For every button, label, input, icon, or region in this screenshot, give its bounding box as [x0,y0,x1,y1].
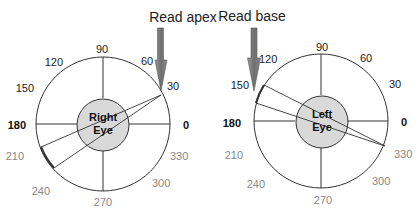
read-base-label: Read base [218,8,286,24]
left-eye-label-1: Left [312,108,333,120]
angle-label-180: 180 [223,117,241,129]
angle-label-270: 270 [314,194,332,206]
angle-label-270: 270 [94,196,112,208]
angle-label-180: 180 [8,119,26,131]
angle-label-330: 330 [170,150,188,162]
right-eye-label-1: Right [89,111,117,123]
angle-label-90: 90 [96,43,108,55]
angle-label-0: 0 [183,119,189,131]
angle-label-240: 240 [32,185,50,197]
left-eye-label-2: Eye [312,121,332,133]
angle-label-240: 240 [247,178,265,190]
angle-label-210: 210 [225,149,243,161]
angle-label-90: 90 [316,41,328,53]
right-eye-diagram: Right Eye 90 120 150 180 210 240 270 300… [6,9,217,208]
angle-label-30: 30 [389,78,401,90]
angle-label-150: 150 [16,82,34,94]
left-eye-diagram: Left Eye 90 120 150 180 210 240 270 300 … [218,8,412,206]
read-apex-arrow-icon [155,28,167,91]
angle-label-300: 300 [152,177,170,189]
read-base-arrow-icon [248,28,261,91]
angle-label-120: 120 [45,56,63,68]
angle-label-60: 60 [360,52,372,64]
angle-label-120: 120 [259,53,277,65]
angle-label-0: 0 [401,116,407,128]
angle-label-330: 330 [394,148,412,160]
angle-label-60: 60 [141,55,153,67]
right-eye-label-2: Eye [93,124,113,136]
angle-label-150: 150 [231,79,249,91]
angle-label-30: 30 [167,80,179,92]
angle-label-210: 210 [6,150,24,162]
angle-label-300: 300 [372,175,390,187]
visual-field-diagram: Right Eye 90 120 150 180 210 240 270 300… [0,0,416,215]
read-apex-label: Read apex [149,9,217,25]
